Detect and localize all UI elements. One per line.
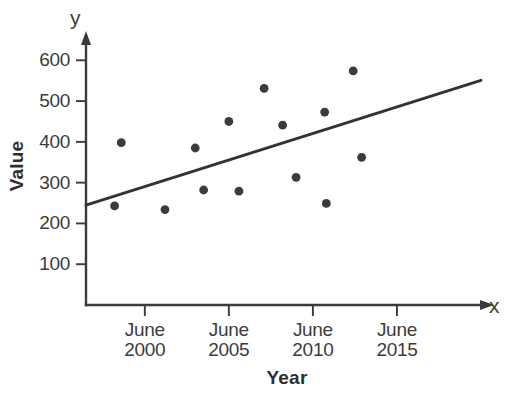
- x-tick-label-month: June: [209, 319, 249, 340]
- y-tick-label: 100: [22, 253, 70, 275]
- data-point: [357, 153, 366, 162]
- plot-canvas: [0, 0, 511, 405]
- y-tick-label: 300: [22, 172, 70, 194]
- data-point: [199, 186, 208, 195]
- x-tick-label: June2015: [376, 320, 417, 360]
- data-point: [349, 67, 358, 76]
- y-tick-label: 200: [22, 212, 70, 234]
- x-tick-label-month: June: [377, 319, 417, 340]
- y-axis-arrow-icon: [81, 31, 91, 45]
- x-tick-label: June2010: [292, 320, 333, 360]
- y-tick-marks: [76, 60, 86, 264]
- x-tick-label-month: June: [125, 319, 165, 340]
- data-point: [292, 173, 301, 182]
- x-tick-label: June2005: [208, 320, 249, 360]
- data-point: [191, 144, 200, 153]
- y-axis-title: Value: [6, 141, 28, 192]
- x-tick-label-year: 2010: [292, 340, 333, 360]
- x-tick-label-year: 2015: [376, 340, 417, 360]
- regression-trend-line: [86, 80, 481, 205]
- data-point: [260, 84, 269, 93]
- data-point: [322, 199, 331, 208]
- x-tick-label-month: June: [293, 319, 333, 340]
- data-point: [235, 187, 244, 196]
- x-tick-label: June2000: [124, 320, 165, 360]
- x-tick-marks: [145, 305, 397, 316]
- y-axis-variable-label: y: [70, 6, 81, 30]
- scatter-plot-figure: 100200300400500600 June2000June2005June2…: [0, 0, 511, 405]
- trend-line-group: [86, 80, 481, 205]
- data-point: [224, 117, 233, 126]
- y-tick-label: 600: [22, 49, 70, 71]
- data-point: [278, 121, 287, 130]
- data-point: [161, 205, 170, 214]
- x-axis-variable-label: x: [489, 294, 500, 318]
- y-tick-label: 400: [22, 131, 70, 153]
- data-point: [110, 202, 119, 211]
- x-tick-label-year: 2000: [124, 340, 165, 360]
- data-point: [117, 138, 126, 147]
- x-tick-label-year: 2005: [208, 340, 249, 360]
- y-tick-label: 500: [22, 90, 70, 112]
- data-point: [320, 108, 329, 117]
- data-points-group: [110, 67, 366, 214]
- x-axis-title: Year: [267, 367, 308, 389]
- axes-group: [81, 31, 494, 310]
